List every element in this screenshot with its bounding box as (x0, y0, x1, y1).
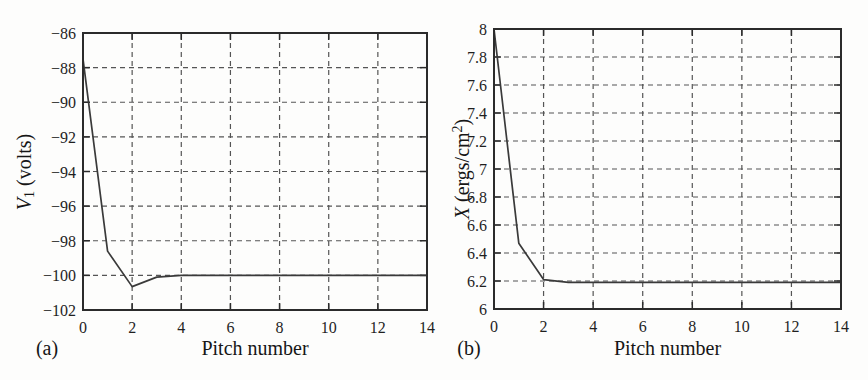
x-tick-label: 10 (734, 317, 750, 336)
y-tick-label: 7.8 (433, 48, 487, 67)
y-tick-label: 8 (433, 20, 487, 39)
y-tick-label: 6 (433, 300, 487, 319)
y-axis-label-part: ) (451, 119, 473, 126)
x-axis-label: Pitch number (614, 337, 721, 359)
x-tick-label: 4 (589, 317, 597, 336)
y-axis-label: X (ergs/cm2) (447, 119, 474, 220)
y-tick-label: 7.6 (433, 76, 487, 95)
figure: Pitch number (a) 02468101214−102−100−98−… (0, 0, 868, 380)
y-tick-label: 6.2 (433, 272, 487, 291)
y-axis-label-part: (ergs/cm (451, 132, 473, 207)
y-axis-label-part: 2 (450, 125, 465, 132)
x-tick-label: 8 (688, 317, 696, 336)
x-tick-label: 2 (540, 317, 548, 336)
y-axis-label-part: X (451, 207, 473, 219)
chart-b-plot-area (493, 28, 842, 310)
x-tick-label: 14 (833, 317, 849, 336)
x-tick-label: 12 (783, 317, 799, 336)
data-series-line (494, 29, 841, 282)
panel-b: Pitch number (b) 0246810121466.26.46.66.… (0, 0, 868, 380)
y-tick-label: 6.4 (433, 244, 487, 263)
x-tick-label: 0 (490, 317, 498, 336)
x-tick-label: 6 (639, 317, 647, 336)
panel-tag-b: (b) (457, 337, 480, 359)
